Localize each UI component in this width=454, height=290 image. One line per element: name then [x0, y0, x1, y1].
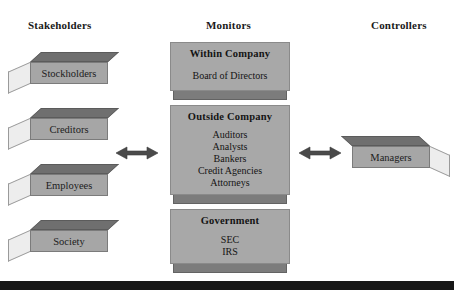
column-header-controllers: Controllers	[371, 19, 427, 31]
monitors-controllers-arrow	[299, 142, 341, 164]
column-header-monitors: Monitors	[206, 19, 251, 31]
panel-shadow-strip	[173, 195, 287, 204]
box-front-face: Society	[30, 230, 108, 252]
stakeholder-label: Society	[53, 236, 85, 247]
panel-title: Within Company	[171, 48, 289, 59]
stakeholders-monitors-arrow	[116, 142, 158, 164]
panel-item: SEC	[171, 234, 289, 246]
panel-item: Auditors	[171, 129, 289, 141]
panel-title: Outside Company	[171, 111, 289, 122]
monitor-panel-government: Government SEC IRS	[170, 209, 290, 273]
stakeholder-box-employees: Employees	[8, 164, 110, 198]
box-top-face	[30, 108, 119, 118]
box-side-face	[8, 174, 30, 206]
box-front-face: Stockholders	[30, 62, 108, 84]
diagram-canvas: Stakeholders Monitors Controllers Stockh…	[0, 0, 454, 290]
column-header-stakeholders: Stakeholders	[28, 19, 92, 31]
box-side-face	[8, 118, 30, 150]
bottom-border-band	[0, 281, 454, 290]
box-front-face: Managers	[352, 146, 430, 168]
box-front-face: Creditors	[30, 118, 108, 140]
panel-item: Analysts	[171, 141, 289, 153]
panel-item: Bankers	[171, 153, 289, 165]
box-side-face	[8, 62, 30, 94]
stakeholder-label: Employees	[46, 180, 93, 191]
box-side-face	[8, 230, 30, 262]
box-top-face	[30, 164, 119, 174]
box-top-face	[30, 220, 119, 230]
panel-item: IRS	[171, 246, 289, 258]
stakeholder-label: Creditors	[49, 124, 88, 135]
stakeholder-box-society: Society	[8, 220, 110, 254]
controller-label: Managers	[370, 152, 411, 163]
panel-face: Government SEC IRS	[170, 209, 290, 264]
box-top-face	[341, 136, 430, 146]
box-front-face: Employees	[30, 174, 108, 196]
stakeholder-box-stockholders: Stockholders	[8, 52, 110, 86]
panel-item: Credit Agencies	[171, 165, 289, 177]
stakeholder-box-creditors: Creditors	[8, 108, 110, 142]
controller-box-managers: Managers	[352, 136, 452, 170]
panel-shadow-strip	[173, 264, 287, 273]
box-side-face	[430, 146, 450, 177]
monitor-panel-outside-company: Outside Company Auditors Analysts Banker…	[170, 105, 290, 204]
panel-shadow-strip	[173, 91, 287, 100]
panel-title: Government	[171, 215, 289, 226]
box-top-face	[30, 52, 119, 62]
panel-item: Attorneys	[171, 177, 289, 189]
stakeholder-label: Stockholders	[42, 68, 97, 79]
panel-item: Board of Directors	[171, 70, 289, 82]
panel-face: Within Company Board of Directors	[170, 42, 290, 91]
panel-face: Outside Company Auditors Analysts Banker…	[170, 105, 290, 195]
monitor-panel-within-company: Within Company Board of Directors	[170, 42, 290, 100]
